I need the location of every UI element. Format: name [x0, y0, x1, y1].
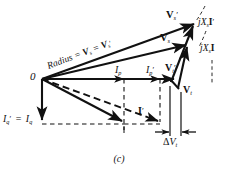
vector-i-current [42, 79, 122, 121]
label-vs: Vs [160, 33, 170, 44]
label-vt-prime-mark: ′ [174, 63, 176, 73]
label-ip-prime: Ip′ [146, 65, 154, 76]
label-jxs-i-prime-mark: ′ [212, 18, 214, 27]
label-i-prime: I′ [138, 106, 144, 116]
label-i-prime-mark: ′ [142, 106, 144, 116]
label-vt-sub: t [190, 89, 192, 96]
label-ip-prime-mark: ′ [152, 66, 154, 75]
label-delta-vt-sub: t [176, 141, 178, 148]
label-ip: Ip [115, 65, 121, 76]
label-origin: 0 [30, 71, 36, 82]
label-jxs-i-prime: jXsI′ [198, 18, 214, 29]
delta-vt-dimension-lines [170, 86, 181, 136]
label-vt: Vt [183, 85, 192, 96]
label-iq-equals: = [14, 113, 24, 124]
phasor-diagram-canvas: Radius = Vs = Vs′ 0 Vs′ jXsI′ Vs jXsI Ip [0, 0, 238, 171]
figure-caption: (c) [0, 153, 238, 164]
label-iq-prime-mark: ′ [9, 115, 11, 124]
label-vt-prime: Vt′ [165, 63, 176, 74]
label-vs-base: V [160, 32, 168, 43]
projection-dashed-lines [42, 79, 160, 130]
figure-container: Radius = Vs = Vs′ 0 Vs′ jXsI′ Vs jXsI Ip [0, 0, 238, 171]
label-vs-prime: Vs′ [166, 10, 178, 21]
label-iq-sub: q [29, 118, 32, 125]
label-radius-equals-1: = [73, 49, 83, 61]
label-delta-vt: ΔVt [163, 137, 177, 148]
label-jxs-i-i: I [211, 43, 215, 53]
label-vs-sub: s [168, 37, 171, 44]
terminal-voltage-strokes [170, 79, 179, 89]
label-vs-prime-mark: ′ [176, 10, 178, 20]
label-iq-equation: Iq′ = Iq [3, 114, 32, 125]
label-ip-sub: p [118, 69, 121, 76]
label-jxs-i: jXsI [200, 44, 214, 55]
label-vs-prime-base: V [166, 9, 174, 20]
